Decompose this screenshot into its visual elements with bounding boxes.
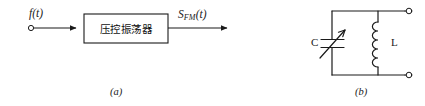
- output-signal-label: SFM(t): [178, 9, 207, 21]
- vco-block-label: 压控振荡器: [84, 17, 168, 39]
- input-terminal-circle: [28, 25, 33, 30]
- input-signal-label: f(t): [29, 8, 43, 20]
- inductor-coil: [372, 22, 378, 67]
- output-signal-label-base: S: [178, 8, 184, 20]
- bottom-right-terminal-circle: [406, 72, 412, 78]
- capacitor-designator-label: C: [311, 37, 318, 48]
- panel-b-group: [320, 8, 412, 78]
- inductor-designator-label: L: [391, 37, 398, 48]
- panel-a-caption: (a): [110, 86, 122, 97]
- output-signal-label-subscript: FM: [184, 13, 196, 22]
- top-right-terminal-circle: [406, 8, 412, 14]
- figure-root: f(t) SFM(t) 压控振荡器 C L (a) (b): [0, 0, 425, 106]
- panel-b-caption: (b): [355, 86, 367, 97]
- output-signal-label-tail: (t): [196, 8, 207, 20]
